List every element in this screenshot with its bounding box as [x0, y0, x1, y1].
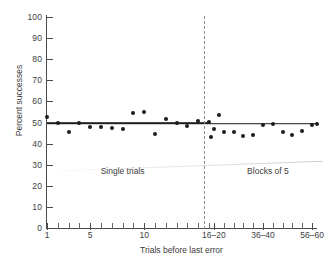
x-tick-mark	[214, 223, 215, 230]
y-tick-label: 20	[18, 182, 42, 191]
data-point	[310, 123, 314, 127]
x-tick-mark	[144, 223, 145, 230]
data-point	[241, 134, 245, 138]
data-point	[261, 123, 265, 127]
data-point	[222, 130, 226, 134]
data-point	[77, 121, 81, 125]
x-tick-mark	[112, 223, 113, 229]
x-tick-mark	[302, 223, 303, 229]
data-point	[251, 133, 255, 137]
y-tick-mark	[47, 59, 53, 60]
x-tick-mark	[243, 223, 244, 229]
data-point	[131, 111, 135, 115]
x-tick-mark	[198, 223, 199, 229]
y-tick-mark	[47, 38, 53, 39]
x-tick-label: 56–60	[300, 231, 324, 240]
x-tick-mark	[58, 223, 59, 229]
x-tick-mark	[123, 223, 124, 229]
data-point	[212, 127, 216, 131]
data-point	[67, 130, 71, 134]
section-divider-line	[204, 16, 205, 229]
data-point	[185, 124, 189, 128]
y-tick-label: 30	[18, 161, 42, 170]
data-point	[121, 127, 125, 131]
x-tick-label: 16–20	[202, 231, 226, 240]
plot-annotation-single-trials: Single trials	[101, 167, 145, 176]
y-tick-mark	[47, 80, 53, 81]
x-tick-mark	[69, 223, 70, 229]
single-trials-fit	[47, 122, 209, 124]
data-point	[300, 129, 304, 133]
x-tick-mark	[79, 223, 80, 229]
data-point	[196, 119, 200, 123]
x-axis-line	[46, 228, 317, 229]
data-point	[209, 135, 213, 139]
data-point	[315, 122, 319, 126]
x-tick-mark	[273, 223, 274, 229]
y-tick-mark	[47, 17, 53, 18]
data-point	[217, 113, 221, 117]
x-tick-mark	[209, 223, 210, 229]
x-tick-mark	[283, 223, 284, 229]
y-axis-label: Percent successes	[15, 46, 24, 156]
x-tick-mark	[177, 223, 178, 229]
y-tick-label: 90	[18, 34, 42, 43]
data-point	[88, 125, 92, 129]
y-tick-label: 10	[18, 203, 42, 212]
x-tick-mark	[187, 223, 188, 229]
x-tick-mark	[133, 223, 134, 229]
x-tick-mark	[155, 223, 156, 229]
x-tick-label: 36–40	[251, 231, 275, 240]
data-point	[281, 130, 285, 134]
plot-annotation-blocks-of-5: Blocks of 5	[247, 167, 289, 176]
x-tick-mark	[101, 223, 102, 229]
x-tick-mark	[253, 223, 254, 229]
data-point	[164, 117, 168, 121]
x-tick-mark	[224, 223, 225, 229]
x-axis-label: Trials before last error	[46, 246, 317, 255]
y-tick-mark	[47, 144, 53, 145]
x-tick-mark	[263, 223, 264, 230]
y-tick-mark	[47, 101, 53, 102]
data-point	[142, 110, 146, 114]
x-tick-mark	[47, 223, 48, 230]
data-point	[153, 132, 157, 136]
x-tick-mark	[234, 223, 235, 229]
y-tick-label: 100	[18, 13, 42, 22]
data-point	[99, 125, 103, 129]
y-tick-mark	[47, 165, 53, 166]
data-point	[232, 130, 236, 134]
x-tick-label: 5	[88, 231, 93, 240]
x-tick-label: 1	[45, 231, 50, 240]
data-point	[110, 126, 114, 130]
data-point	[271, 122, 275, 126]
y-tick-mark	[47, 207, 53, 208]
y-tick-label: 0	[18, 224, 42, 233]
x-tick-mark	[166, 223, 167, 229]
x-tick-label: 10	[139, 231, 148, 240]
data-point	[45, 115, 49, 119]
data-point	[56, 121, 60, 125]
x-tick-mark	[292, 223, 293, 229]
data-point	[207, 120, 211, 124]
data-point	[290, 133, 294, 137]
x-tick-mark	[90, 223, 91, 230]
y-tick-mark	[47, 186, 53, 187]
x-tick-mark	[312, 223, 313, 230]
data-point	[175, 121, 179, 125]
